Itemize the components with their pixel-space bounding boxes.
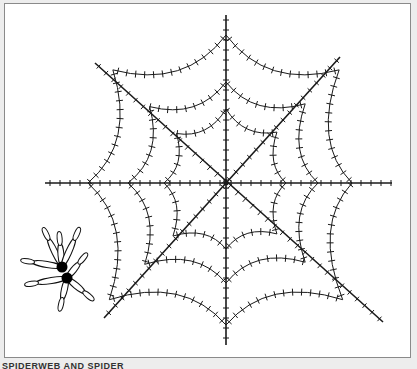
ring-tick	[275, 171, 281, 174]
ring-tick	[171, 69, 172, 76]
ring-tick	[173, 219, 180, 220]
ring-tick	[325, 130, 332, 131]
ring-tick	[176, 155, 183, 156]
ring-tick	[209, 123, 213, 129]
ring-tick	[240, 307, 244, 313]
ring-tick	[325, 69, 326, 76]
web-ring-segment	[328, 70, 352, 183]
ring-tick	[269, 229, 270, 236]
ring-tick	[126, 69, 127, 76]
ring-tick	[270, 146, 277, 147]
spider-body	[62, 273, 73, 284]
ring-tick	[114, 260, 121, 261]
ring-tick	[294, 256, 295, 263]
ring-tick	[335, 163, 341, 166]
ring-tick	[158, 105, 159, 112]
spider-leg-segment	[24, 280, 39, 287]
ring-tick	[162, 70, 163, 77]
ring-tick	[325, 113, 332, 114]
ring-tick	[208, 95, 212, 101]
ring-tick	[317, 71, 318, 78]
web-ring-segment	[226, 35, 339, 75]
ring-tick	[184, 256, 185, 263]
spider-body	[57, 262, 68, 273]
ring-tick	[227, 37, 232, 41]
ring-tick	[247, 98, 250, 104]
ring-tick	[285, 255, 286, 262]
ring-tick	[142, 162, 148, 165]
ring-tick	[146, 243, 153, 244]
spider-leg-segment	[57, 297, 65, 312]
ring-tick	[169, 192, 175, 195]
ring-tick	[237, 121, 241, 127]
spiderweb-illustration	[0, 0, 417, 369]
ring-tick	[104, 159, 110, 163]
ring-tick	[140, 289, 141, 296]
ring-tick	[104, 206, 110, 209]
ring-tick	[116, 127, 123, 128]
web-ring-segment	[150, 82, 226, 110]
web-ring-segment	[177, 109, 226, 134]
ring-tick	[328, 224, 335, 225]
web-ring-segment	[299, 104, 318, 183]
spider-leg-segment	[41, 227, 52, 242]
ring-tick	[134, 191, 140, 195]
ring-tick	[306, 171, 312, 175]
spider-leg-segment	[20, 258, 35, 265]
web-ring-segment	[88, 183, 118, 300]
spider-leg-segment	[72, 226, 82, 241]
ring-tick	[337, 198, 343, 201]
ring-tick	[166, 256, 167, 263]
web-ring-segment	[273, 183, 286, 234]
ring-tick	[304, 195, 310, 199]
ring-tick	[283, 289, 284, 296]
spider	[20, 226, 95, 311]
ring-tick	[149, 119, 156, 120]
ring-tick	[186, 230, 187, 237]
ring-tick	[199, 301, 202, 307]
ring-tick	[116, 100, 123, 101]
ring-tick	[271, 202, 278, 203]
web-center	[224, 181, 229, 186]
ring-tick	[99, 166, 105, 170]
ring-tick	[176, 146, 183, 147]
ring-tick	[202, 55, 206, 61]
ring-tick	[115, 91, 122, 92]
ring-tick	[241, 265, 245, 271]
ring-tick	[233, 237, 237, 243]
ring-tick	[265, 103, 266, 110]
ring-tick	[100, 198, 106, 202]
ring-tick	[267, 255, 268, 262]
ring-tick	[112, 277, 119, 278]
ring-tick	[167, 289, 168, 296]
web-ring-segment	[273, 132, 286, 183]
ring-tick	[327, 251, 334, 252]
ring-tick	[326, 139, 333, 140]
ring-tick	[206, 306, 210, 312]
ring-tick	[297, 120, 304, 121]
ring-tick	[309, 187, 315, 191]
figure-caption: SPIDERWEB AND SPIDER	[2, 361, 124, 369]
ring-tick	[326, 103, 333, 104]
ring-tick	[296, 130, 303, 131]
ring-tick	[147, 226, 154, 227]
ring-tick	[342, 190, 348, 194]
ring-tick	[153, 71, 154, 78]
ring-tick	[340, 171, 346, 175]
ring-tick	[131, 291, 132, 298]
spiderweb	[45, 15, 392, 345]
web-ring-segment	[88, 70, 120, 183]
ring-tick	[290, 71, 291, 78]
ring-tick	[248, 302, 251, 308]
ring-tick	[195, 59, 199, 65]
ring-tick	[208, 266, 212, 272]
ring-tick	[114, 242, 121, 243]
ring-tick	[296, 240, 303, 241]
ring-tick	[319, 291, 320, 298]
ring-tick	[195, 230, 196, 237]
ring-tick	[144, 252, 151, 253]
ring-tick	[328, 260, 335, 261]
web-ring-segment	[164, 183, 177, 236]
ring-tick	[291, 103, 292, 110]
spider-leg-segment	[81, 289, 95, 302]
